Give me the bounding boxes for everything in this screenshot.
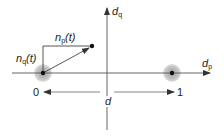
noisy-sample-dot (90, 44, 94, 48)
symbol-1-dot (170, 71, 174, 75)
noise-vector-arrow (43, 48, 89, 73)
constellation-diagram (0, 0, 224, 138)
horizontal-axis-label: dp (202, 58, 212, 70)
vertical-axis-label: dq (112, 6, 122, 18)
quadrature-noise-label: nq(t) (16, 53, 36, 65)
in-phase-noise-label: np(t) (55, 32, 75, 44)
symbol-0-dot (41, 71, 45, 75)
distance-center-label: d (103, 96, 113, 107)
distance-right-label: 1 (177, 87, 183, 98)
distance-left-label: 0 (33, 87, 39, 98)
